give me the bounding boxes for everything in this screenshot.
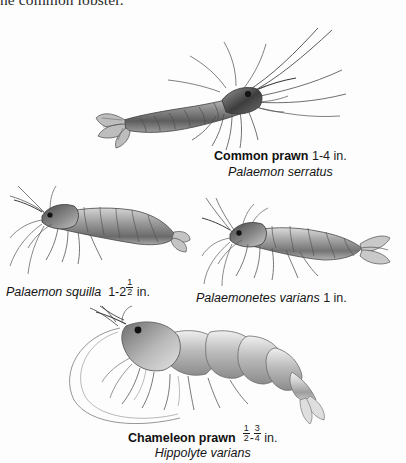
varians-eye xyxy=(236,230,241,235)
common-name-label: Common prawn xyxy=(214,149,308,163)
figure-common-prawn xyxy=(96,28,346,153)
chameleon-antennae xyxy=(90,306,132,326)
figure-palaemonetes-varians xyxy=(196,196,392,290)
chameleon-tail-fan xyxy=(300,396,324,424)
chameleon-eye xyxy=(135,327,142,334)
chameleon-carapace xyxy=(122,322,180,371)
common-prawn-eye xyxy=(245,91,251,97)
common-name-label: Chameleon prawn xyxy=(128,431,236,445)
common-prawn-rostrum xyxy=(256,78,296,90)
scientific-name-label: Palaemonetes varians xyxy=(196,291,320,305)
fraction-three-quarters: 34 xyxy=(254,424,261,443)
size-label: 1 in. xyxy=(320,291,347,305)
chameleon-rostrum xyxy=(96,312,126,324)
varians-tail-fan xyxy=(360,236,390,264)
squilla-eye xyxy=(47,212,52,217)
caption-palaemon-squilla: Palaemon squilla 1-212 in. xyxy=(6,278,150,300)
figure-palaemon-squilla xyxy=(8,182,190,278)
caption-common-prawn: Common prawn 1-4 in. Palaemon serratus xyxy=(214,146,347,180)
caption-chameleon-prawn: Chameleon prawn 12-34 in. Hippolyte vari… xyxy=(128,424,278,461)
size-label: 1-4 in. xyxy=(308,149,346,163)
illustration-plate: ne common lobster. xyxy=(0,0,406,463)
squilla-antennae xyxy=(10,186,56,274)
fraction-one-half: 12 xyxy=(243,424,250,443)
scientific-name-label: Hippolyte varians xyxy=(128,446,278,461)
scientific-name-label: Palaemon squilla xyxy=(6,285,101,299)
caption-palaemonetes-varians: Palaemonetes varians 1 in. xyxy=(196,288,347,307)
varians-carapace xyxy=(230,222,267,247)
figure-chameleon-prawn xyxy=(60,306,328,424)
fraction-one-half: 12 xyxy=(126,278,133,297)
size-label: 1-212 in. xyxy=(101,285,150,299)
squilla-tail-fan xyxy=(171,231,190,252)
size-label: 12-34 in. xyxy=(236,431,278,445)
common-prawn-carapace xyxy=(222,88,262,115)
squilla-carapace xyxy=(42,204,79,229)
clipped-running-text: ne common lobster. xyxy=(0,0,124,9)
scientific-name-label: Palaemon serratus xyxy=(214,165,347,180)
chameleon-abdomen xyxy=(163,331,302,391)
